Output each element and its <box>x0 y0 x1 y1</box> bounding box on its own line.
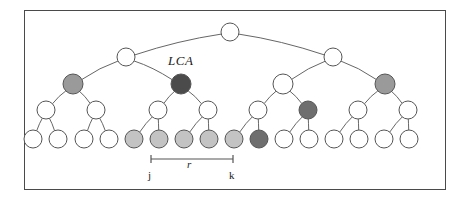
tree-edge <box>82 61 118 79</box>
tree-node-leaf-13[interactable] <box>350 130 368 148</box>
tree-edge <box>37 118 43 131</box>
tree-node-leaf-3[interactable] <box>100 130 118 148</box>
tree-node-d3-1[interactable] <box>87 101 105 119</box>
tree-edge <box>239 34 325 55</box>
figure-container: LCA r j k <box>0 0 472 211</box>
tree-node-d3-0[interactable] <box>37 101 55 119</box>
tree-node-d3-4[interactable] <box>249 101 267 119</box>
range-bracket-group <box>151 155 233 163</box>
lca-label: LCA <box>168 54 193 67</box>
tree-node-leaf-15[interactable] <box>400 130 418 148</box>
tree-edge <box>134 61 172 80</box>
tree-node-leaf-4[interactable] <box>125 130 143 148</box>
tree-node-leaf-2[interactable] <box>75 130 93 148</box>
tree-edge <box>80 91 90 103</box>
tree-node-d2-0[interactable] <box>63 74 83 94</box>
tree-node-d3-6[interactable] <box>349 101 367 119</box>
tree-edge <box>240 117 253 132</box>
tree-diagram-svg <box>0 0 472 211</box>
tree-edge <box>164 91 174 103</box>
tree-node-d1-0[interactable] <box>117 48 135 66</box>
tree-node-d2-1[interactable] <box>171 74 191 94</box>
tree-edge <box>290 91 302 103</box>
range-end-label-k: k <box>229 170 235 181</box>
tree-node-d3-7[interactable] <box>399 101 417 119</box>
tree-node-d1-1[interactable] <box>324 48 342 66</box>
tree-edge <box>140 117 153 132</box>
tree-edge <box>390 117 403 132</box>
tree-node-leaf-8[interactable] <box>225 130 243 148</box>
tree-edge <box>52 91 65 104</box>
tree-node-root[interactable] <box>221 23 239 41</box>
tree-edge <box>341 61 376 79</box>
tree-edge <box>188 91 201 104</box>
tree-edge <box>340 117 353 132</box>
range-length-label: r <box>187 159 191 170</box>
tree-node-d3-5[interactable] <box>299 101 317 119</box>
tree-edge <box>100 118 106 131</box>
tree-node-d3-2[interactable] <box>149 101 167 119</box>
tree-edge <box>264 91 276 103</box>
tree-node-leaf-9[interactable] <box>250 130 268 148</box>
tree-node-leaf-0[interactable] <box>24 130 42 148</box>
tree-edge <box>290 117 303 132</box>
tree-node-leaf-7[interactable] <box>200 130 218 148</box>
tree-node-d3-3[interactable] <box>199 101 217 119</box>
tree-node-leaf-14[interactable] <box>375 130 393 148</box>
tree-edge <box>87 118 92 130</box>
tree-edge <box>292 61 325 79</box>
tree-node-d2-2[interactable] <box>273 74 293 94</box>
tree-node-leaf-5[interactable] <box>150 130 168 148</box>
tree-node-leaf-1[interactable] <box>49 130 67 148</box>
tree-node-leaf-11[interactable] <box>300 130 318 148</box>
range-start-label-j: j <box>148 170 151 181</box>
tree-node-leaf-6[interactable] <box>175 130 193 148</box>
tree-edge <box>392 91 402 103</box>
tree-node-d2-3[interactable] <box>375 74 395 94</box>
tree-edge <box>49 118 54 130</box>
tree-node-leaf-12[interactable] <box>325 130 343 148</box>
tree-edge <box>135 34 222 55</box>
tree-edge <box>364 91 377 104</box>
tree-node-leaf-10[interactable] <box>275 130 293 148</box>
tree-edge <box>190 117 203 132</box>
